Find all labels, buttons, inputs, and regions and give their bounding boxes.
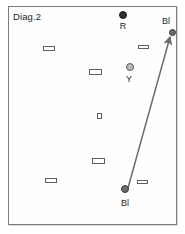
disc-black-bottom-label: Bl [117,198,133,208]
bowl-marker [137,180,148,184]
diagram-root: Diag.2 R Bl Y Bl [0,0,185,234]
disc-black-bottom [121,185,129,193]
disc-red [119,11,127,19]
disc-red-label: R [116,21,130,31]
bowl-marker [43,46,55,51]
bowl-marker [45,178,57,183]
disc-black-top-right-label: Bl [158,16,174,26]
bowl-marker [138,45,149,49]
bowl-marker [89,69,102,75]
bowl-marker [97,113,102,119]
disc-black-top-right [169,29,176,36]
bowl-marker [92,158,105,164]
disc-yellow [126,63,134,71]
diagram-frame [8,6,177,225]
disc-yellow-label: Y [122,74,136,84]
diagram-title: Diag.2 [13,11,41,22]
